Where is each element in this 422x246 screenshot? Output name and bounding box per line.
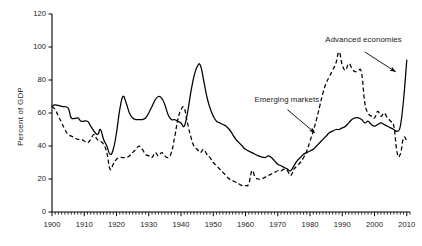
advanced-economies-label: Advanced economies: [325, 35, 401, 44]
chart-figure: Percent of GDP 120100806040200 190019101…: [0, 0, 422, 246]
y-tick-label: 40: [6, 141, 46, 150]
advanced-economies-annotation-arrow: [365, 52, 396, 72]
series-line-advanced-economies: [52, 60, 407, 171]
y-tick-label: 0: [6, 207, 46, 216]
emerging-markets-label: Emerging markets: [254, 95, 319, 104]
y-tick-label: 20: [6, 174, 46, 183]
y-tick-label: 120: [6, 9, 46, 18]
chart-series: [52, 52, 407, 186]
x-tick-label: 2010: [387, 220, 422, 229]
y-tick-label: 100: [6, 42, 46, 51]
y-tick-label: 80: [6, 75, 46, 84]
emerging-markets-annotation-arrow: [287, 110, 314, 133]
y-tick-label: 60: [6, 108, 46, 117]
